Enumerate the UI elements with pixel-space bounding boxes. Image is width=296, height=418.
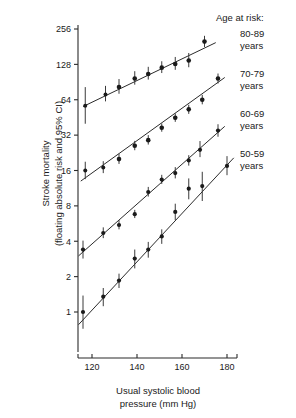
data-point [81,247,85,251]
data-point [117,279,121,283]
data-point [146,247,150,251]
legend-item-60-69-unit: years [240,120,264,132]
legend-item-80-89: 80-89 years [240,28,264,51]
data-point [173,171,177,175]
data-point [186,107,191,112]
legend-item-80-89-range: 80-89 [240,28,264,40]
data-point [117,157,122,162]
series-80-89-years [83,36,216,124]
legend-item-60-69: 60-69 years [240,108,264,131]
data-point [83,169,87,173]
data-point [187,187,191,191]
x-axis-title-line2: pressure (mm Hg) [78,398,238,411]
y-tick-label: 256 [56,24,71,34]
data-point [159,125,164,130]
y-tick-label: 2 [66,272,71,282]
x-tick-label: 140 [129,362,144,372]
y-tick-label: 4 [66,237,71,247]
data-point [186,58,191,63]
legend-item-60-69-range: 60-69 [240,108,264,120]
legend-title: Age at risk: [216,12,264,23]
data-point [101,231,105,235]
data-point [104,92,108,96]
data-point [200,184,204,188]
data-point [216,76,221,81]
data-point [133,212,137,216]
y-tick-label: 8 [66,201,71,211]
data-point [187,158,191,162]
data-point [173,210,177,214]
data-point [81,310,85,314]
data-point [117,85,122,90]
y-axis-title: Stroke mortality [39,59,52,289]
y-tick-label: 1 [66,307,71,317]
legend-item-70-79-range: 70-79 [240,68,264,80]
data-point [200,97,205,102]
series-70-79-years [81,74,225,182]
legend-item-50-59: 50-59 years [240,148,264,171]
legend-item-50-59-unit: years [240,160,264,172]
x-axis-title: Usual systolic blood pressure (mm Hg) [78,385,238,410]
data-point [146,72,151,77]
data-point [146,190,150,194]
legend-item-70-79: 70-79 years [240,68,264,91]
data-point [216,128,220,132]
y-axis-title-sub: (floating absolute risk and 95% CI) [52,59,65,289]
x-tick-label: 120 [84,362,99,372]
data-point [132,76,137,81]
data-point [202,39,207,44]
data-point [159,65,164,70]
series-layer [79,36,234,329]
x-axis-title-line1: Usual systolic blood [78,385,238,398]
legend-item-50-59-range: 50-59 [240,148,264,160]
legend-item-80-89-unit: years [240,40,264,52]
data-point [133,256,137,260]
y-axis-title-line2: (floating absolute risk and 95% CI) [53,101,64,246]
data-point [160,234,164,238]
data-point [101,295,105,299]
data-point [160,177,164,181]
legend-item-70-79-unit: years [240,80,264,92]
x-tick-label: 160 [174,362,189,372]
data-point [225,164,229,168]
data-point [83,104,87,108]
data-point [173,115,178,120]
data-point [146,138,151,143]
y-axis-title-line1: Stroke mortality [40,141,51,207]
data-point [173,62,178,67]
data-point [198,148,202,152]
x-tick-label: 180 [219,362,234,372]
axes-layer [74,25,237,358]
data-point [132,143,137,148]
series-50-59-years [79,156,234,329]
data-point [101,165,105,169]
chart-container: 1248163264128256120140160180 Usual systo… [0,0,296,418]
data-point [117,223,121,227]
